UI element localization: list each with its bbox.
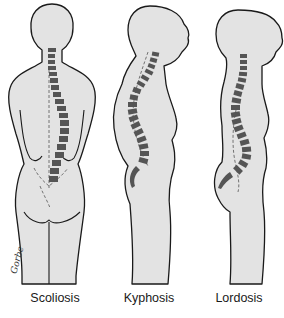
- lordosis-figure: [215, 10, 283, 284]
- label-scoliosis: Scoliosis: [10, 291, 100, 305]
- label-kyphosis: Kyphosis: [104, 291, 194, 305]
- scoliosis-figure: [9, 4, 96, 284]
- spine-illustration: [0, 0, 284, 318]
- kyphosis-figure: [113, 6, 188, 284]
- label-lordosis: Lordosis: [194, 291, 284, 305]
